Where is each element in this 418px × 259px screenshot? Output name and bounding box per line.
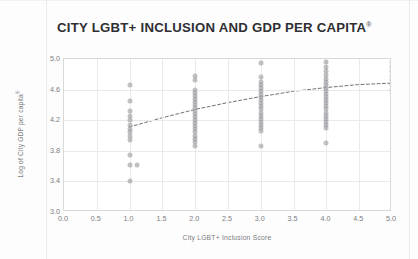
x-axis-tick-label: 0.5 <box>91 214 101 223</box>
chart-card: CITY LGBT+ INCLUSION AND GDP PER CAPITA®… <box>0 0 418 259</box>
x-axis-label: City LGBT+ Inclusion Score <box>183 234 272 241</box>
x-axis-tick-label: 3.5 <box>288 214 298 223</box>
x-axis-tick-label: 1.5 <box>156 214 166 223</box>
gridline-vertical <box>294 59 295 210</box>
gridline-vertical <box>228 59 229 210</box>
gridline-vertical <box>326 59 327 210</box>
x-axis-tick-label: 3.0 <box>255 214 265 223</box>
y-axis-tick-label: 4.6 <box>50 84 60 93</box>
plot-wrapper: Log of City GDP per capita® 3.03.43.84.2… <box>0 0 418 259</box>
y-axis-tick-label: 3.8 <box>50 145 60 154</box>
x-axis-tick-label: 1.0 <box>124 214 134 223</box>
x-axis-tick-label: 4.5 <box>353 214 363 223</box>
gridline-vertical <box>97 59 98 210</box>
y-axis-ticks: 3.03.43.84.24.65.0 <box>38 58 60 211</box>
plot-area <box>63 58 391 211</box>
y-axis-tick-label: 4.2 <box>50 115 60 124</box>
x-axis-tick-label: 0.0 <box>58 214 68 223</box>
y-axis-label-superscript: ® <box>16 90 21 94</box>
gridline-horizontal <box>64 90 390 91</box>
x-axis-tick-label: 5.0 <box>386 214 396 223</box>
x-axis-tick-label: 4.0 <box>320 214 330 223</box>
gridline-vertical <box>261 59 262 210</box>
gridline-horizontal <box>64 120 390 121</box>
gridline-vertical <box>195 59 196 210</box>
x-axis-tick-label: 2.5 <box>222 214 232 223</box>
gridline-horizontal <box>64 151 390 152</box>
y-axis-label: Log of City GDP per capita® <box>16 90 24 177</box>
trend-line <box>64 59 390 210</box>
y-axis-tick-label: 3.4 <box>50 176 60 185</box>
gridline-vertical <box>359 59 360 210</box>
x-axis-tick-label: 2.0 <box>189 214 199 223</box>
x-axis-ticks: 0.00.51.01.52.02.53.03.54.04.55.0 <box>63 214 391 228</box>
gridline-vertical <box>130 59 131 210</box>
y-axis-label-text: Log of City GDP per capita <box>17 94 24 178</box>
gridline-horizontal <box>64 181 390 182</box>
y-axis-tick-label: 5.0 <box>50 54 60 63</box>
gridline-vertical <box>162 59 163 210</box>
